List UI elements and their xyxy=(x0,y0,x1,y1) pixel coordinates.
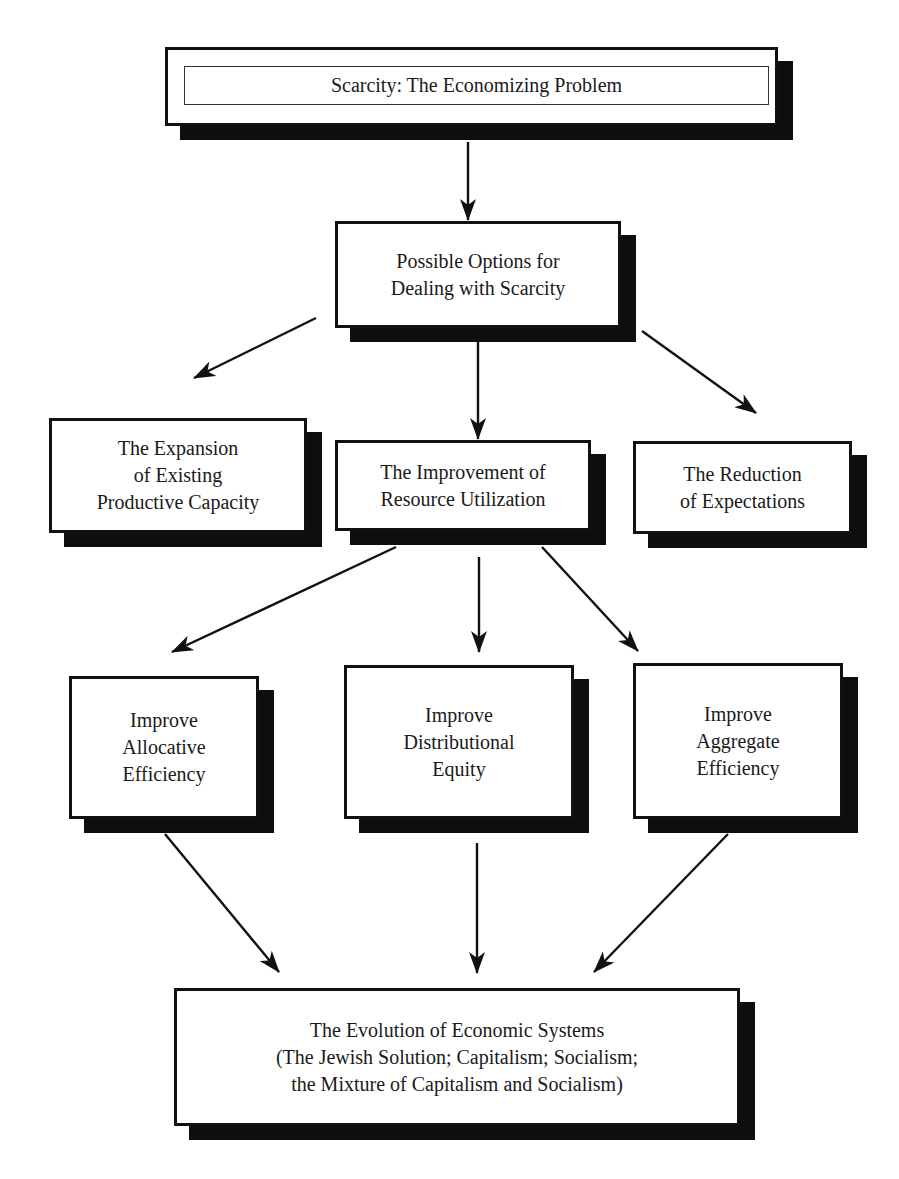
node-expansion: The Expansion of Existing Productive Cap… xyxy=(49,418,307,533)
node-evolution: The Evolution of Economic Systems (The J… xyxy=(174,988,740,1126)
arrow-aggregate-to-evolution xyxy=(594,834,728,972)
node-improvement-label: The Improvement of Resource Utilization xyxy=(380,459,546,513)
node-options-label: Possible Options for Dealing with Scarci… xyxy=(391,248,565,302)
node-aggregate: Improve Aggregate Efficiency xyxy=(633,663,843,819)
node-scarcity-inner-frame: Scarcity: The Economizing Problem xyxy=(184,66,769,105)
node-aggregate-label: Improve Aggregate Efficiency xyxy=(696,701,779,782)
node-distributional: Improve Distributional Equity xyxy=(344,665,574,819)
node-improvement: The Improvement of Resource Utilization xyxy=(335,440,591,531)
node-scarcity: Scarcity: The Economizing Problem xyxy=(165,47,778,126)
node-reduction: The Reduction of Expectations xyxy=(633,441,852,534)
arrow-allocative-to-evolution xyxy=(165,834,279,972)
arrow-improvement-to-allocative xyxy=(172,547,396,652)
arrow-improvement-to-aggregate xyxy=(542,547,638,651)
node-scarcity-label: Scarcity: The Economizing Problem xyxy=(331,72,622,99)
node-evolution-label: The Evolution of Economic Systems (The J… xyxy=(276,1017,638,1098)
arrow-options-to-expansion xyxy=(194,318,316,378)
node-expansion-label: The Expansion of Existing Productive Cap… xyxy=(97,435,260,516)
arrow-options-to-reduction xyxy=(642,331,756,413)
node-reduction-label: The Reduction of Expectations xyxy=(680,461,805,515)
node-allocative: Improve Allocative Efficiency xyxy=(69,676,259,819)
node-options: Possible Options for Dealing with Scarci… xyxy=(335,221,621,328)
node-allocative-label: Improve Allocative Efficiency xyxy=(122,707,205,788)
node-distributional-label: Improve Distributional Equity xyxy=(403,702,514,783)
